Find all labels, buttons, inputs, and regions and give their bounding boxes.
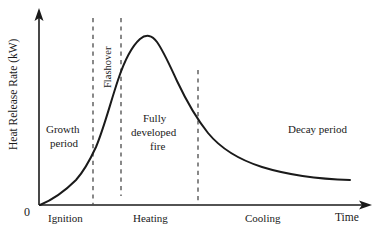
growth-period-label-line1: Growth (46, 123, 80, 135)
y-axis-title: Heat Release Rate (kW) (7, 38, 20, 150)
fully-developed-fire-label-line3: fire (150, 140, 165, 152)
growth-period-label-line2: period (50, 137, 79, 149)
phase-label-ignition: Ignition (48, 212, 83, 224)
fully-developed-fire-label-line2: developed (131, 126, 177, 138)
fire-development-curve-figure: 0 Heat Release Rate (kW) Time Growth per… (0, 0, 386, 240)
phase-label-heating: Heating (133, 212, 168, 224)
heat-release-rate-curve (40, 36, 350, 205)
phase-label-cooling: Cooling (245, 212, 281, 224)
x-axis (39, 201, 372, 210)
x-axis-title: Time (335, 211, 359, 223)
y-axis (35, 8, 44, 205)
fully-developed-fire-label-line1: Fully (143, 112, 167, 124)
flashover-label: Flashover (102, 46, 113, 88)
origin-label: 0 (24, 205, 30, 219)
decay-period-label: Decay period (288, 123, 347, 135)
